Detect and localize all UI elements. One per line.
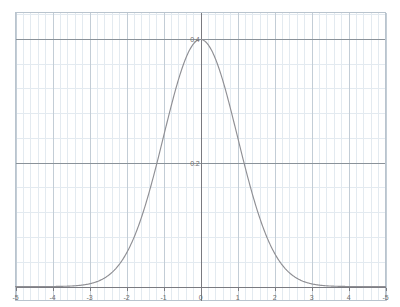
minor-gridlines-vertical [17, 13, 379, 301]
y-tick-label: 0.2 [190, 159, 199, 166]
x-tick-label: -5 [383, 294, 389, 301]
x-tick-label: 2 [273, 294, 277, 301]
y-tick-label: 0.4 [190, 35, 199, 42]
gaussian-curve-figure: -5-4-3-2-101234-5 0.20.4 [0, 0, 400, 307]
plot-canvas [0, 0, 400, 307]
major-gridlines-horizontal [16, 40, 386, 164]
x-tick-label: -2 [124, 294, 130, 301]
axes [16, 13, 386, 301]
x-tick-label: 0 [199, 294, 203, 301]
x-tick-label: 4 [347, 294, 351, 301]
x-tick-label: 3 [310, 294, 314, 301]
x-tick-label: -5 [13, 294, 19, 301]
x-tick-label: -1 [161, 294, 167, 301]
plot-border [16, 13, 386, 301]
x-tick-label: 1 [236, 294, 240, 301]
x-tick-label: -4 [50, 294, 56, 301]
x-tick-label: -3 [87, 294, 93, 301]
minor-gridlines-horizontal [16, 15, 386, 288]
